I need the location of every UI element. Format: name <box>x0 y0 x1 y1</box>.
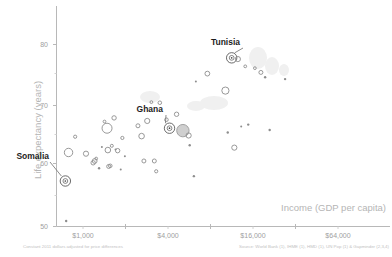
data-point[interactable] <box>115 148 119 152</box>
data-point[interactable] <box>105 147 111 153</box>
data-point[interactable] <box>142 159 146 163</box>
data-point[interactable] <box>103 120 106 123</box>
data-point[interactable] <box>155 170 158 173</box>
y-axis-title: Life expectancy (years) <box>32 81 43 179</box>
data-point[interactable] <box>101 146 103 148</box>
data-point[interactable] <box>110 144 113 147</box>
data-point[interactable] <box>264 76 266 78</box>
data-point[interactable] <box>284 78 286 80</box>
data-point[interactable] <box>177 124 189 136</box>
data-point[interactable] <box>268 129 270 131</box>
data-point[interactable] <box>120 168 122 170</box>
y-tick-label: 50 <box>40 223 48 230</box>
data-point[interactable] <box>195 81 197 83</box>
data-point[interactable] <box>165 118 169 122</box>
data-point[interactable] <box>112 116 116 120</box>
data-point[interactable] <box>124 155 126 157</box>
y-axis-ticks <box>53 45 57 227</box>
footnote-right: Source: World Bank (1), IHME (1), HMD (1… <box>239 244 390 249</box>
chart-canvas: 80 70 60 50 $1,000 $4,000 $16,000 $64,00… <box>0 0 392 257</box>
data-point[interactable] <box>247 123 249 125</box>
data-point[interactable] <box>64 148 72 156</box>
data-point[interactable] <box>74 135 77 138</box>
country-label-somalia: Somalia <box>16 151 49 161</box>
y-tick-label: 80 <box>40 41 48 48</box>
data-point[interactable] <box>174 112 178 116</box>
data-point[interactable] <box>83 151 88 156</box>
data-point[interactable] <box>145 118 150 123</box>
data-points-layer <box>60 53 286 223</box>
data-point[interactable] <box>136 124 140 128</box>
data-point-center-dot <box>231 57 233 59</box>
country-label-ghana: Ghana <box>137 104 164 114</box>
data-point[interactable] <box>121 136 124 139</box>
data-point[interactable] <box>189 144 191 146</box>
data-point[interactable] <box>205 71 210 76</box>
data-point[interactable] <box>259 70 263 74</box>
data-point[interactable] <box>139 133 145 139</box>
data-point[interactable] <box>98 167 100 169</box>
leader-line <box>235 48 243 53</box>
leader-line <box>50 162 61 176</box>
data-point-center-dot <box>65 180 67 182</box>
data-point[interactable] <box>240 125 242 127</box>
data-point[interactable] <box>235 56 240 61</box>
data-point[interactable] <box>152 159 156 163</box>
x-axis-tick-labels: $1,000 $4,000 $16,000 $64,000 <box>72 232 350 239</box>
country-label-tunisia: Tunisia <box>211 37 240 47</box>
data-point[interactable] <box>244 65 247 68</box>
scatter-chart: 80 70 60 50 $1,000 $4,000 $16,000 $64,00… <box>0 0 392 257</box>
footnote-left: Constant 2011 dollars adjusted for price… <box>23 244 124 249</box>
x-tick-label: $1,000 <box>72 232 94 239</box>
data-point[interactable] <box>65 220 67 222</box>
data-point[interactable] <box>193 175 195 177</box>
data-point[interactable] <box>95 157 98 160</box>
data-point[interactable] <box>102 123 112 133</box>
data-point[interactable] <box>222 87 229 94</box>
data-point[interactable] <box>227 131 229 133</box>
x-tick-label: $16,000 <box>240 232 265 239</box>
x-axis-title: Income (GDP per capita) <box>281 202 386 213</box>
ghost-artifacts <box>140 47 289 111</box>
x-tick-label: $4,000 <box>157 232 179 239</box>
data-point[interactable] <box>232 145 237 150</box>
x-tick-label: $64,000 <box>325 232 350 239</box>
data-point-center-dot <box>169 127 171 129</box>
